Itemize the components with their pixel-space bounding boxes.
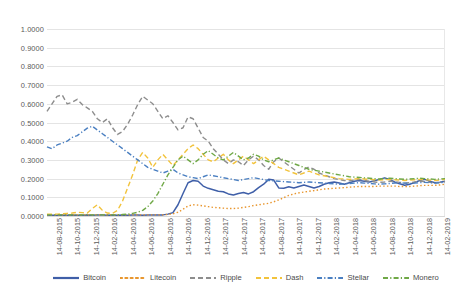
legend-swatch-monero — [383, 274, 409, 282]
x-axis-tick-label: 14-06-2016 — [147, 218, 156, 255]
y-axis-tick-label: 0.4000 — [2, 137, 44, 146]
x-axis-tick-label: 14-08-2017 — [277, 218, 286, 255]
x-axis-tick-label: 14-02-2018 — [332, 218, 341, 255]
legend-item-monero[interactable]: Monero — [383, 274, 439, 282]
chart-legend: BitcoinLitecoinRippleDashStellarMonero — [47, 270, 445, 286]
legend-item-dash[interactable]: Dash — [256, 274, 304, 282]
legend-label: Stellar — [347, 274, 369, 282]
series-line-stellar — [47, 126, 445, 184]
y-axis-tick-label: 0.5000 — [2, 118, 44, 127]
y-axis-tick-label: 0.7000 — [2, 81, 44, 90]
x-axis-tick-label: 14-02-2019 — [443, 218, 452, 255]
y-axis-tick-label: 0.3000 — [2, 155, 44, 164]
x-axis-tick-label: 14-12-2017 — [314, 218, 323, 255]
x-axis-tick-label: 14-06-2018 — [369, 218, 378, 255]
series-line-monero — [47, 151, 445, 215]
legend-swatch-litecoin — [120, 274, 146, 282]
y-axis: 0.00000.10000.20000.30000.40000.50000.60… — [0, 29, 44, 216]
y-axis-tick-label: 0.9000 — [2, 43, 44, 52]
x-axis-tick-label: 14-10-2017 — [295, 218, 304, 255]
x-axis-tick-label: 14-06-2017 — [258, 218, 267, 255]
series-line-litecoin — [47, 184, 445, 215]
y-axis-tick-label: 0.1000 — [2, 193, 44, 202]
legend-item-bitcoin[interactable]: Bitcoin — [53, 274, 106, 282]
plot-area — [47, 29, 445, 216]
legend-label: Litecoin — [150, 274, 176, 282]
legend-label: Bitcoin — [83, 274, 106, 282]
x-axis-tick-label: 14-08-2015 — [55, 218, 64, 255]
legend-swatch-ripple — [190, 274, 216, 282]
x-axis-tick-label: 14-12-2018 — [425, 218, 434, 255]
y-axis-tick-label: 0.2000 — [2, 174, 44, 183]
legend-swatch-bitcoin — [53, 274, 79, 282]
x-axis-tick-label: 14-04-2018 — [351, 218, 360, 255]
y-axis-tick-label: 0.0000 — [2, 212, 44, 221]
y-axis-tick-label: 0.6000 — [2, 99, 44, 108]
x-axis-tick-label: 14-10-2016 — [184, 218, 193, 255]
series-lines — [47, 29, 445, 216]
legend-label: Ripple — [220, 274, 242, 282]
legend-label: Dash — [286, 274, 304, 282]
x-axis-tick-label: 14-12-2015 — [92, 218, 101, 255]
x-axis-tick-label: 14-08-2016 — [166, 218, 175, 255]
x-axis-tick-label: 14-10-2018 — [406, 218, 415, 255]
legend-swatch-stellar — [317, 274, 343, 282]
y-axis-tick-label: 1.0000 — [2, 25, 44, 34]
x-axis-tick-label: 14-10-2015 — [73, 218, 82, 255]
x-axis-tick-label: 14-02-2017 — [221, 218, 230, 255]
x-axis-tick-label: 14-04-2017 — [240, 218, 249, 255]
legend-item-stellar[interactable]: Stellar — [317, 274, 369, 282]
figure-caption — [6, 295, 306, 304]
y-axis-tick-label: 0.8000 — [2, 62, 44, 71]
x-axis: 14-08-201514-10-201514-12-201514-02-2016… — [47, 218, 445, 266]
legend-label: Monero — [413, 274, 439, 282]
x-axis-baseline — [47, 216, 445, 217]
x-axis-tick-label: 14-02-2016 — [110, 218, 119, 255]
legend-item-ripple[interactable]: Ripple — [190, 274, 242, 282]
x-axis-tick-label: 14-04-2016 — [129, 218, 138, 255]
chart-container: 0.00000.10000.20000.30000.40000.50000.60… — [0, 0, 459, 304]
legend-swatch-dash — [256, 274, 282, 282]
legend-item-litecoin[interactable]: Litecoin — [120, 274, 176, 282]
x-axis-tick-label: 14-12-2016 — [203, 218, 212, 255]
x-axis-tick-label: 14-08-2018 — [388, 218, 397, 255]
series-line-ripple — [47, 95, 445, 183]
